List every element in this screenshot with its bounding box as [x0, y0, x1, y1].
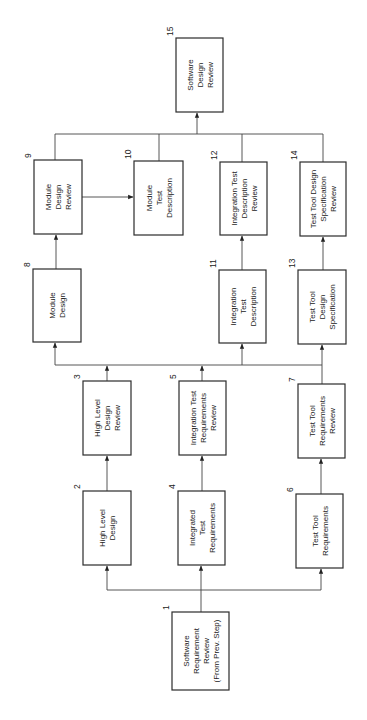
node-1: 1SoftwareRequirementReview(From Prev. St… — [161, 605, 229, 690]
node-label-line: Module — [48, 292, 57, 319]
node-label-line: Requirement — [192, 627, 201, 674]
node-number: 6 — [285, 487, 295, 492]
node-label-line: Software — [186, 59, 195, 91]
node-15: 15SoftwareDesignReview — [165, 26, 223, 112]
node-number: 12 — [209, 150, 219, 160]
node-label: ModuleDesign — [48, 292, 67, 319]
node-label-line: Specification — [319, 176, 328, 221]
node-number: 7 — [287, 377, 297, 382]
node-label-line: Review — [113, 405, 122, 431]
node-number: 14 — [289, 150, 299, 160]
node-label-line: High Level — [93, 399, 102, 437]
node-number: 3 — [72, 374, 82, 379]
node-label-line: Review — [209, 405, 218, 431]
node-number: 11 — [208, 259, 218, 268]
node-number: 2 — [72, 484, 82, 489]
node-label-line: (From Prev. Step) — [212, 619, 221, 682]
node-box — [296, 494, 343, 568]
node-label-line: Review — [64, 184, 73, 210]
node-label-line: Software — [182, 635, 191, 667]
node-label-line: Design — [58, 293, 67, 318]
node-7: 7Test ToolRequirementsReview — [287, 377, 345, 458]
node-label-line: Description — [249, 286, 258, 326]
node-label-line: Requirements — [208, 503, 217, 553]
node-6: 6Test ToolRequirements — [285, 487, 343, 568]
node-label-line: Integration — [229, 288, 238, 326]
node-label-line: Design — [108, 516, 117, 541]
node-2: 2High LevelDesign — [72, 484, 131, 565]
node-label: ModuleDesignReview — [44, 183, 73, 210]
node-label-line: Design — [103, 406, 112, 431]
node-label-line: Requirements — [321, 506, 330, 556]
node-label: SoftwareDesignReview — [186, 59, 215, 91]
node-number: 4 — [167, 484, 177, 489]
node-number: 5 — [168, 374, 178, 379]
node-8: 8ModuleDesign — [22, 262, 81, 342]
node-label-line: Module — [44, 183, 53, 210]
node-label-line: Review — [206, 62, 215, 88]
node-label-line: Design — [318, 295, 327, 320]
node-label-line: Description — [165, 178, 174, 218]
node-number: 10 — [123, 149, 133, 159]
flow-diagram: 1SoftwareRequirementReview(From Prev. St… — [0, 0, 367, 720]
node-label-line: Requirements — [318, 396, 327, 446]
node-number: 13 — [287, 258, 297, 268]
node-label-line: Review — [328, 408, 337, 434]
node-label-line: Integration Test — [189, 390, 198, 445]
node-number: 8 — [22, 262, 32, 267]
node-label-line: Integrated — [188, 510, 197, 546]
node-14: 14Test Tool DesignSpecificationReview — [289, 150, 346, 236]
node-label-line: Description — [240, 178, 249, 218]
node-label-line: Test — [198, 520, 207, 535]
node-label-line: Test Tool Design — [309, 170, 318, 229]
node-3: 3High LevelDesignReview — [72, 374, 131, 455]
node-label-line: Review — [329, 186, 338, 212]
node-box — [83, 491, 131, 565]
node-label-line: Integration Test — [230, 170, 239, 225]
node-box — [33, 269, 81, 342]
node-number: 15 — [165, 26, 175, 36]
node-label-line: Test Tool — [308, 291, 317, 323]
node-number: 9 — [23, 153, 33, 158]
node-12: 12Integration TestDescriptionReview — [209, 150, 267, 235]
node-label-line: Design — [54, 185, 63, 210]
node-13: 13Test ToolDesignSpecification — [287, 258, 346, 344]
node-4: 4IntegratedTestRequirements — [167, 484, 225, 565]
node-label-line: Module — [145, 184, 154, 211]
node-label-line: High Level — [98, 509, 107, 547]
node-label-line: Review — [250, 185, 259, 211]
node-number: 1 — [161, 605, 171, 610]
node-10: 10ModuleTestDescription — [123, 149, 183, 235]
node-label-line: Test — [239, 298, 248, 313]
node-label-line: Requirements — [199, 393, 208, 443]
node-5: 5Integration TestRequirementsReview — [168, 374, 226, 455]
node-label-line: Review — [202, 638, 211, 664]
node-label-line: Test Tool — [308, 405, 317, 437]
node-label-line: Test — [155, 190, 164, 205]
node-label-line: Specification — [328, 284, 337, 329]
node-11: 11IntegrationTestDescription — [208, 259, 266, 343]
node-label-line: Test Tool — [311, 515, 320, 547]
node-label-line: Design — [196, 63, 205, 88]
node-9: 9ModuleDesignReview — [23, 153, 82, 234]
